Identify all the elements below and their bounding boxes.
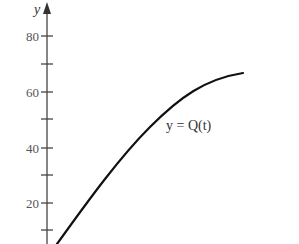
tick-label-20: 20 xyxy=(26,196,39,211)
y-axis-arrow-icon xyxy=(43,2,51,14)
curve-label: y = Q(t) xyxy=(166,118,212,134)
tick-label-80: 80 xyxy=(26,29,39,44)
tick-label-60: 60 xyxy=(26,85,39,100)
y-axis-label: y xyxy=(32,2,41,17)
tick-label-40: 40 xyxy=(26,141,39,156)
chart: y 80 60 40 20 y = Q(t) xyxy=(0,0,299,244)
curve-Q xyxy=(57,73,243,244)
